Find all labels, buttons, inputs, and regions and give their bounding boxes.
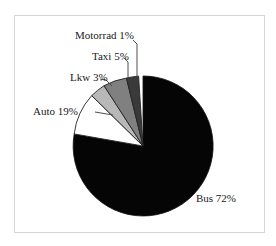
leader-line-motorrad xyxy=(133,40,137,78)
pie-chart-graphic xyxy=(0,0,276,246)
pie-label-motorrad: Motorrad 1% xyxy=(75,30,134,41)
pie-label-auto: Auto 19% xyxy=(33,106,78,117)
pie-chart-figure: Motorrad 1% Taxi 5% Lkw 3% Auto 19% Bus … xyxy=(0,0,276,246)
pie-label-bus: Bus 72% xyxy=(196,193,236,204)
pie-label-taxi: Taxi 5% xyxy=(92,51,129,62)
pie-label-lkw: Lkw 3% xyxy=(70,72,108,83)
